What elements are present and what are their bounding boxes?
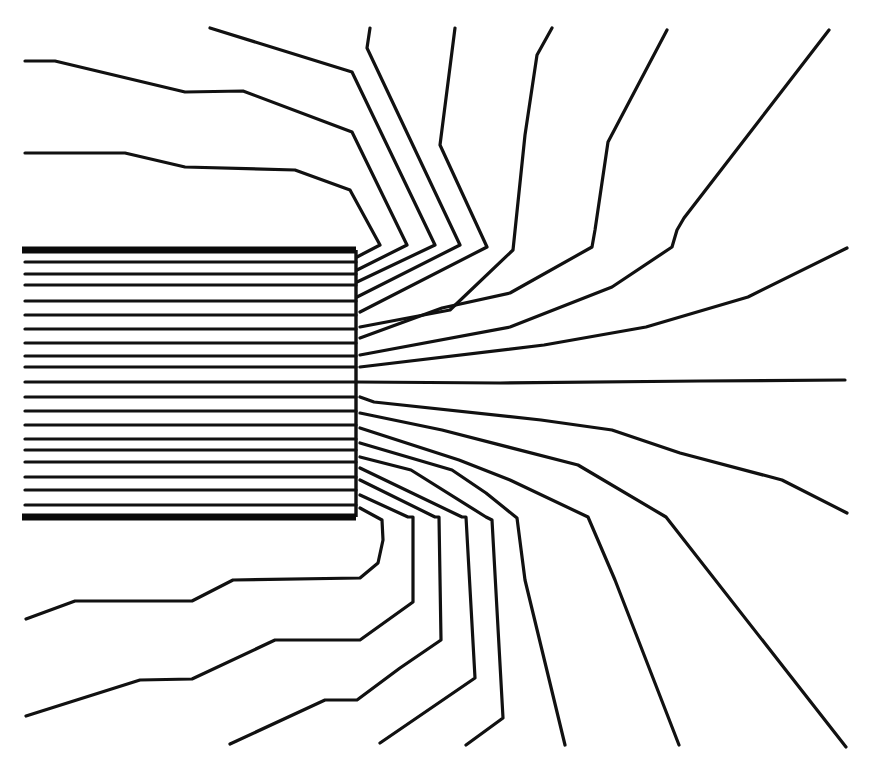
- capacitor-field-diagram: [0, 0, 871, 764]
